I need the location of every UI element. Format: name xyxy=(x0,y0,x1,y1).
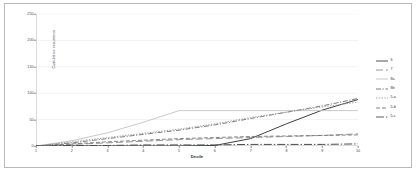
x-tick-mark xyxy=(71,146,72,148)
legend-label: 8a xyxy=(391,78,395,82)
legend-label: 5-b xyxy=(391,106,396,110)
y-tick-label: 200 xyxy=(27,38,33,42)
y-tick-mark xyxy=(34,67,36,68)
legend-item-5-b[interactable]: 5-b xyxy=(376,103,414,112)
legend-label: 5-a xyxy=(391,96,396,100)
x-tick-mark xyxy=(215,146,216,148)
legend-label: 5-c xyxy=(391,115,396,119)
legend-label: 7 xyxy=(391,68,393,72)
x-tick-label: 9 xyxy=(321,149,323,153)
y-tick-mark xyxy=(34,14,36,15)
y-tick-mark xyxy=(34,93,36,94)
plot-area: Cumulative occurrence Decile 05010015020… xyxy=(36,14,358,146)
x-tick-label: 1 xyxy=(35,149,37,153)
legend-swatch-icon xyxy=(376,59,388,63)
y-axis-title: Cumulative occurrence xyxy=(49,9,59,89)
x-tick-mark xyxy=(107,146,108,148)
x-tick-label: 6 xyxy=(214,149,216,153)
y-tick-label: 0 xyxy=(31,144,33,148)
x-tick-label: 3 xyxy=(107,149,109,153)
legend-swatch-icon xyxy=(376,68,388,72)
x-tick-label: 7 xyxy=(250,149,252,153)
x-axis-title: Decile xyxy=(191,154,203,159)
legend-swatch-icon xyxy=(376,115,388,119)
legend-label: 8b xyxy=(391,87,395,91)
x-tick-label: 2 xyxy=(71,149,73,153)
plot-canvas xyxy=(36,14,358,146)
legend-item-7[interactable]: 7 xyxy=(376,65,414,74)
x-tick-label: 5 xyxy=(178,149,180,153)
y-tick-mark xyxy=(34,40,36,41)
x-tick-mark xyxy=(286,146,287,148)
legend-item-5-c[interactable]: 5-c xyxy=(376,112,414,121)
x-tick-label: 8 xyxy=(285,149,287,153)
legend-item-6[interactable]: 6 xyxy=(376,56,414,65)
legend-item-8a[interactable]: 8a xyxy=(376,75,414,84)
x-tick-mark xyxy=(143,146,144,148)
y-tick-label: 150 xyxy=(27,65,33,69)
y-tick-mark xyxy=(34,119,36,120)
x-tick-mark xyxy=(179,146,180,148)
legend-swatch-icon xyxy=(376,87,388,91)
legend-swatch-icon xyxy=(376,106,388,110)
legend-label: 6 xyxy=(391,59,393,63)
legend-swatch-icon xyxy=(376,96,388,100)
x-tick-label: 4 xyxy=(142,149,144,153)
chart-figure: Cumulative occurrence Decile 05010015020… xyxy=(0,0,416,172)
x-tick-mark xyxy=(36,146,37,148)
x-tick-mark xyxy=(322,146,323,148)
x-tick-mark xyxy=(358,146,359,148)
y-tick-label: 250 xyxy=(27,12,33,16)
y-tick-label: 100 xyxy=(27,91,33,95)
x-tick-mark xyxy=(250,146,251,148)
legend-item-5-a[interactable]: 5-a xyxy=(376,94,414,103)
chart-legend: 678a8b5-a5-b5-c xyxy=(376,56,414,122)
y-tick-label: 50 xyxy=(29,118,33,122)
x-tick-label: 10 xyxy=(356,149,360,153)
legend-item-8b[interactable]: 8b xyxy=(376,84,414,93)
legend-swatch-icon xyxy=(376,77,388,81)
